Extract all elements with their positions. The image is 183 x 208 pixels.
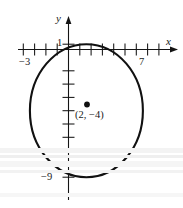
math-figure-circle-graph: y x 1 −3 7 −9 (2, −4): [0, 0, 183, 208]
center-point-marker: [84, 102, 90, 108]
y-axis-arrowhead: [66, 16, 72, 24]
x-axis-arrowhead: [170, 47, 178, 53]
y-tick-label-minus-9: −9: [41, 172, 52, 183]
y-tick-label-1: 1: [57, 38, 62, 49]
y-axis-label: y: [56, 13, 61, 24]
coordinate-plane-svg: [0, 0, 183, 208]
x-tick-label-7: 7: [139, 57, 144, 68]
center-point-label: (2, −4): [75, 110, 104, 121]
x-axis-label: x: [166, 36, 171, 47]
x-tick-label-minus-3: −3: [19, 57, 30, 68]
